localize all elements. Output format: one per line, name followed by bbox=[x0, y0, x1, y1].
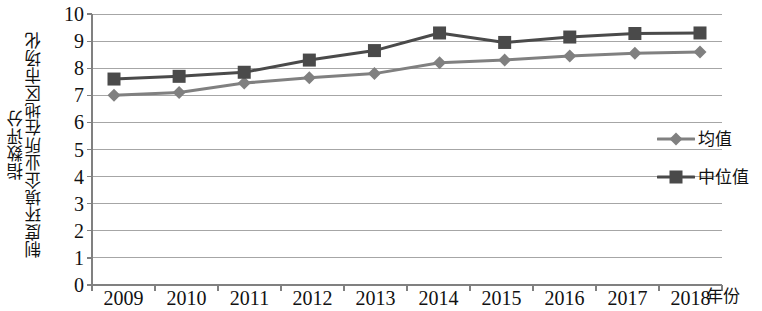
diamond-marker-icon bbox=[498, 54, 511, 67]
square-marker-icon bbox=[108, 73, 121, 86]
y-axis-tick-label: 8 bbox=[74, 58, 84, 78]
square-marker-icon bbox=[628, 27, 641, 40]
diamond-marker-icon bbox=[628, 47, 641, 60]
legend-label: 均值 bbox=[698, 131, 732, 148]
diamond-marker-icon bbox=[108, 89, 121, 102]
x-axis-tick-label: 2017 bbox=[608, 288, 648, 308]
diamond-marker-icon bbox=[303, 71, 316, 84]
y-axis-tick-label: 6 bbox=[74, 112, 84, 132]
x-axis-tick-label: 2016 bbox=[545, 288, 585, 308]
x-axis-tick-label: 2012 bbox=[293, 288, 333, 308]
plot-area bbox=[92, 14, 722, 285]
diamond-marker-icon bbox=[670, 133, 683, 146]
diamond-marker-icon bbox=[694, 45, 707, 58]
square-marker-icon bbox=[433, 26, 446, 39]
x-axis-tick-labels: 2009201020112012201320142015201620172018 bbox=[92, 286, 722, 311]
plot-svg bbox=[92, 14, 722, 285]
x-axis-title: 年份 bbox=[706, 288, 740, 305]
y-axis-tick-label: 1 bbox=[74, 248, 84, 268]
x-axis-tick-label: 2009 bbox=[104, 288, 144, 308]
x-axis-tick-label: 2011 bbox=[230, 288, 269, 308]
x-axis-tick-label: 2018 bbox=[671, 288, 711, 308]
legend-marker-icon bbox=[657, 131, 695, 147]
y-axis-tick-label: 9 bbox=[74, 31, 84, 51]
x-axis-tick-label: 2015 bbox=[482, 288, 522, 308]
y-axis-tick-label: 3 bbox=[74, 194, 84, 214]
diamond-marker-icon bbox=[563, 50, 576, 63]
square-marker-icon bbox=[670, 171, 683, 184]
line-chart: 制度环境企业所在地区市场化 指数评分 109876543210 20092010… bbox=[0, 0, 762, 311]
y-axis-title-line-2: 指数评分 bbox=[9, 110, 26, 180]
y-axis-tick-labels: 109876543210 bbox=[52, 0, 88, 300]
y-axis-tick-label: 2 bbox=[74, 221, 84, 241]
y-axis-tick-label: 4 bbox=[74, 167, 84, 187]
diamond-marker-icon bbox=[433, 56, 446, 69]
y-axis-tick-label: 0 bbox=[74, 275, 84, 295]
square-marker-icon bbox=[238, 66, 251, 79]
diamond-marker-icon bbox=[173, 86, 186, 99]
legend-item: 中位值 bbox=[657, 158, 762, 196]
square-marker-icon bbox=[563, 31, 576, 44]
y-axis-title-line-1: 制度环境企业所在地区市场化 bbox=[27, 32, 44, 258]
x-axis-tick-label: 2014 bbox=[419, 288, 459, 308]
square-marker-icon bbox=[368, 44, 381, 57]
square-marker-icon bbox=[694, 26, 707, 39]
x-axis-tick-label: 2013 bbox=[356, 288, 396, 308]
legend-marker-icon bbox=[657, 169, 695, 185]
square-marker-icon bbox=[173, 70, 186, 83]
y-axis-tick-label: 5 bbox=[74, 140, 84, 160]
legend-label: 中位值 bbox=[698, 169, 749, 186]
legend-marker-swatch bbox=[657, 169, 695, 185]
chart-legend: 均值中位值 bbox=[657, 120, 762, 196]
y-axis-tick-label: 10 bbox=[64, 4, 84, 24]
x-axis-tick-label: 2010 bbox=[167, 288, 207, 308]
square-marker-icon bbox=[498, 36, 511, 49]
series-line bbox=[114, 33, 700, 79]
legend-marker-swatch bbox=[657, 131, 695, 147]
legend-item: 均值 bbox=[657, 120, 762, 158]
y-axis-tick-label: 7 bbox=[74, 85, 84, 105]
y-axis-title: 制度环境企业所在地区市场化 指数评分 bbox=[0, 0, 52, 290]
square-marker-icon bbox=[303, 54, 316, 67]
diamond-marker-icon bbox=[368, 67, 381, 80]
